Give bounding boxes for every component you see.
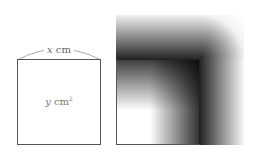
area-label: y cm2: [17, 93, 101, 107]
side-length-label: x cm: [44, 44, 74, 55]
area-unit: cm: [51, 96, 69, 107]
side-unit: cm: [53, 44, 71, 55]
gradient-right-band: [200, 59, 244, 145]
gradient-top-band: [116, 15, 200, 59]
area-exponent: 2: [69, 95, 73, 102]
right-square: [116, 59, 200, 145]
gradient-corner: [200, 15, 244, 59]
